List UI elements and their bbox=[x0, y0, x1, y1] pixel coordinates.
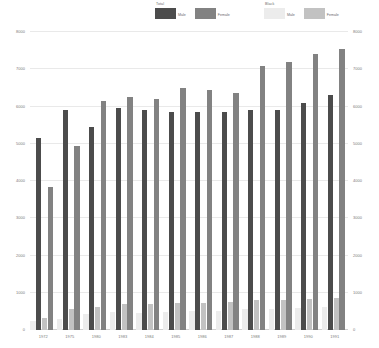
x-axis-tick-label: 1990 bbox=[295, 335, 322, 339]
bar-group bbox=[163, 32, 190, 330]
y-axis-tick-label: 8000 bbox=[353, 30, 362, 34]
bar-group bbox=[30, 32, 57, 330]
bar[interactable] bbox=[89, 127, 94, 330]
y-axis-tick-label: 5000 bbox=[353, 142, 362, 146]
bar[interactable] bbox=[339, 49, 344, 330]
y-axis-tick-label: 7000 bbox=[16, 67, 25, 71]
bar[interactable] bbox=[334, 298, 339, 330]
y-axis-tick-label: 7000 bbox=[353, 67, 362, 71]
bar[interactable] bbox=[36, 138, 41, 330]
bar[interactable] bbox=[248, 110, 253, 330]
legend-group-black: Black Male Female bbox=[264, 2, 348, 19]
legend-swatch-black-male bbox=[264, 8, 285, 19]
legend-label-black-female: Female bbox=[327, 14, 339, 19]
y-axis-tick-label: 8000 bbox=[16, 30, 25, 34]
bar[interactable] bbox=[260, 66, 265, 330]
bar[interactable] bbox=[136, 313, 141, 331]
bar-chart: Total Male Female Black Male bbox=[0, 0, 379, 348]
bar-group bbox=[136, 32, 163, 330]
y-axis-tick-label: 2000 bbox=[16, 254, 25, 258]
legend-entry-total-male[interactable]: Male bbox=[155, 8, 186, 19]
bar[interactable] bbox=[169, 112, 174, 330]
plot-area bbox=[30, 32, 348, 330]
bar[interactable] bbox=[254, 300, 259, 330]
legend-entry-black-male[interactable]: Male bbox=[264, 8, 295, 19]
legend-swatch-black-female bbox=[304, 8, 325, 19]
x-axis-tick-label: 1984 bbox=[136, 335, 163, 339]
bar[interactable] bbox=[95, 307, 100, 330]
bar[interactable] bbox=[222, 112, 227, 330]
y-axis-right: 010002000300040005000600070008000 bbox=[349, 32, 379, 330]
legend-swatch-total-female bbox=[195, 8, 216, 19]
y-axis-tick-label: 6000 bbox=[353, 105, 362, 109]
x-axis-tick-label: 1991 bbox=[322, 335, 349, 339]
bar[interactable] bbox=[307, 299, 312, 330]
bar[interactable] bbox=[322, 307, 327, 330]
y-axis-tick-label: 6000 bbox=[16, 105, 25, 109]
bar[interactable] bbox=[195, 112, 200, 330]
bar-group bbox=[242, 32, 269, 330]
bar[interactable] bbox=[201, 303, 206, 330]
y-axis-tick-label: 0 bbox=[353, 328, 355, 332]
bar[interactable] bbox=[116, 108, 121, 330]
bar[interactable] bbox=[295, 308, 300, 330]
bar-group bbox=[322, 32, 349, 330]
bar[interactable] bbox=[122, 304, 127, 330]
x-axis-tick-label: 1988 bbox=[242, 335, 269, 339]
y-axis-tick-label: 4000 bbox=[16, 179, 25, 183]
bar[interactable] bbox=[275, 110, 280, 330]
bar[interactable] bbox=[154, 99, 159, 330]
bar[interactable] bbox=[148, 304, 153, 330]
bar[interactable] bbox=[242, 309, 247, 330]
bar[interactable] bbox=[216, 311, 221, 330]
bar[interactable] bbox=[207, 90, 212, 330]
x-axis-tick-label: 1989 bbox=[269, 335, 296, 339]
bar[interactable] bbox=[233, 93, 238, 330]
bar[interactable] bbox=[328, 95, 333, 330]
bar[interactable] bbox=[83, 314, 88, 330]
legend-swatch-total-male bbox=[155, 8, 176, 19]
bar[interactable] bbox=[69, 309, 74, 330]
bar[interactable] bbox=[228, 302, 233, 330]
legend-group-title: Black bbox=[265, 2, 348, 6]
y-axis-left: 010002000300040005000600070008000 bbox=[0, 32, 28, 330]
x-axis-tick-label: 1986 bbox=[189, 335, 216, 339]
legend-entry-black-female[interactable]: Female bbox=[304, 8, 339, 19]
bar-groups bbox=[30, 32, 348, 330]
bar[interactable] bbox=[175, 303, 180, 330]
bar[interactable] bbox=[163, 312, 168, 330]
y-axis-tick-label: 3000 bbox=[353, 216, 362, 220]
bar[interactable] bbox=[180, 88, 185, 330]
bar[interactable] bbox=[74, 146, 79, 330]
bar[interactable] bbox=[281, 300, 286, 330]
bar[interactable] bbox=[110, 312, 115, 330]
x-axis-tick-label: 1972 bbox=[30, 335, 57, 339]
y-axis-tick-label: 4000 bbox=[353, 179, 362, 183]
x-axis-tick-label: 1980 bbox=[83, 335, 110, 339]
bar[interactable] bbox=[269, 309, 274, 330]
legend-entry-total-female[interactable]: Female bbox=[195, 8, 230, 19]
bar[interactable] bbox=[42, 318, 47, 330]
bar-group bbox=[295, 32, 322, 330]
bar[interactable] bbox=[127, 97, 132, 330]
bar[interactable] bbox=[189, 311, 194, 330]
legend-group-title: Total bbox=[156, 2, 239, 6]
y-axis-tick-label: 1000 bbox=[16, 291, 25, 295]
bar-group bbox=[57, 32, 84, 330]
x-axis-tick-label: 1985 bbox=[163, 335, 190, 339]
bar[interactable] bbox=[57, 319, 62, 330]
bar[interactable] bbox=[286, 62, 291, 330]
legend-label-total-male: Male bbox=[178, 14, 186, 19]
x-axis-tick-label: 1987 bbox=[216, 335, 243, 339]
bar-group bbox=[110, 32, 137, 330]
x-axis-tick-label: 1983 bbox=[110, 335, 137, 339]
bar[interactable] bbox=[101, 101, 106, 330]
bar[interactable] bbox=[48, 187, 53, 330]
bar[interactable] bbox=[142, 110, 147, 330]
legend-label-black-male: Male bbox=[287, 14, 295, 19]
bar-group bbox=[189, 32, 216, 330]
bar[interactable] bbox=[30, 321, 35, 330]
bar[interactable] bbox=[313, 54, 318, 330]
bar[interactable] bbox=[301, 103, 306, 330]
bar[interactable] bbox=[63, 110, 68, 330]
